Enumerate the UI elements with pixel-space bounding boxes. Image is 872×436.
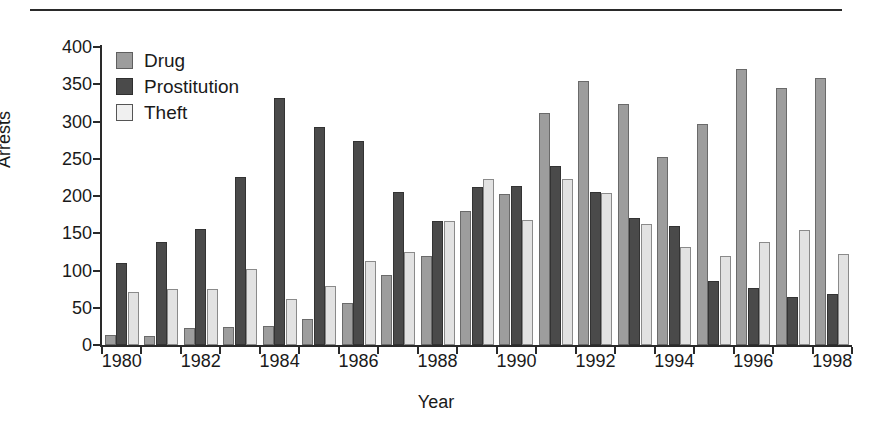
bar-prostitution-1986: [353, 141, 364, 345]
x-tick-label-1986: 1986: [324, 352, 394, 370]
bar-drug-1990: [499, 194, 510, 345]
bar-prostitution-1992: [590, 192, 601, 345]
bar-theft-1984: [286, 299, 297, 345]
bar-prostitution-1987: [393, 192, 404, 345]
bar-theft-1992: [601, 193, 612, 345]
legend-item-drug: Drug: [116, 47, 239, 73]
y-tick-label: 250: [46, 150, 92, 168]
bar-drug-1982: [184, 328, 195, 345]
bar-prostitution-1981: [156, 242, 167, 345]
bar-theft-1993: [641, 224, 652, 345]
bar-theft-1981: [167, 289, 178, 345]
bar-theft-1982: [207, 289, 218, 345]
y-tick-label: 150: [46, 224, 92, 242]
x-tick-label-1980: 1980: [87, 352, 157, 370]
bar-theft-1995: [720, 256, 731, 345]
y-tick: [93, 270, 100, 272]
bar-prostitution-1988: [432, 221, 443, 345]
legend-item-theft: Theft: [116, 99, 239, 125]
bar-prostitution-1998: [827, 294, 838, 345]
y-tick-label: 0: [46, 336, 92, 354]
bar-theft-1990: [522, 220, 533, 345]
bar-prostitution-1996: [748, 288, 759, 345]
x-tick-label-1998: 1998: [797, 352, 867, 370]
bar-drug-1993: [618, 104, 629, 345]
y-tick-label: 50: [46, 299, 92, 317]
bar-theft-1997: [799, 230, 810, 345]
y-tick-label: 200: [46, 187, 92, 205]
bar-theft-1987: [404, 252, 415, 345]
bar-drug-1987: [381, 275, 392, 345]
y-tick: [93, 195, 100, 197]
bar-drug-1997: [776, 88, 787, 345]
x-tick-label-1988: 1988: [403, 352, 473, 370]
bar-theft-1985: [325, 286, 336, 345]
bar-prostitution-1985: [314, 127, 325, 345]
bar-prostitution-1997: [787, 297, 798, 345]
bar-drug-1995: [697, 124, 708, 345]
y-tick: [93, 307, 100, 309]
y-tick: [93, 121, 100, 123]
bar-drug-1992: [578, 81, 589, 345]
bar-prostitution-1989: [472, 187, 483, 345]
bar-drug-1989: [460, 211, 471, 345]
bar-drug-1998: [815, 78, 826, 345]
legend-label-prostitution: Prostitution: [144, 77, 239, 96]
x-tick-label-1982: 1982: [166, 352, 236, 370]
x-tick-label-1990: 1990: [481, 352, 551, 370]
x-tick-label-1984: 1984: [245, 352, 315, 370]
bar-drug-1981: [144, 336, 155, 345]
y-tick: [93, 83, 100, 85]
y-tick: [93, 344, 100, 346]
bar-drug-1988: [421, 256, 432, 345]
x-tick-label-1994: 1994: [639, 352, 709, 370]
chart-legend: Drug Prostitution Theft: [116, 47, 239, 125]
bar-drug-1996: [736, 69, 747, 345]
bar-theft-1989: [483, 179, 494, 345]
bar-drug-1983: [223, 327, 234, 345]
x-tick-label-1996: 1996: [718, 352, 788, 370]
figure-canvas: Arrests Year 050100150200250300350400 19…: [0, 0, 872, 436]
bar-prostitution-1982: [195, 229, 206, 345]
bar-theft-1998: [838, 254, 849, 345]
bar-prostitution-1980: [116, 263, 127, 345]
bar-theft-1983: [246, 269, 257, 345]
bar-prostitution-1994: [669, 226, 680, 345]
bar-drug-1991: [539, 113, 550, 345]
bar-theft-1994: [680, 247, 691, 345]
bar-prostitution-1990: [511, 186, 522, 345]
x-axis-line: [100, 345, 852, 347]
bar-prostitution-1984: [274, 98, 285, 345]
y-tick: [93, 232, 100, 234]
y-axis-title: Arrests: [0, 111, 15, 168]
y-tick-label: 300: [46, 113, 92, 131]
y-tick-label: 400: [46, 38, 92, 56]
legend-swatch-theft-icon: [116, 104, 133, 121]
y-tick: [93, 158, 100, 160]
bar-drug-1986: [342, 303, 353, 345]
y-tick: [93, 46, 100, 48]
bar-theft-1986: [365, 261, 376, 345]
bar-drug-1994: [657, 157, 668, 345]
legend-label-drug: Drug: [144, 51, 185, 70]
y-tick-label: 100: [46, 262, 92, 280]
bar-prostitution-1995: [708, 281, 719, 345]
y-tick-label: 350: [46, 75, 92, 93]
bar-theft-1991: [562, 179, 573, 345]
bar-drug-1980: [105, 335, 116, 345]
x-axis-title: Year: [0, 392, 872, 413]
legend-item-prostitution: Prostitution: [116, 73, 239, 99]
top-divider-rule: [30, 9, 842, 11]
legend-swatch-prostitution-icon: [116, 78, 133, 95]
bar-theft-1980: [128, 292, 139, 345]
bar-prostitution-1991: [550, 166, 561, 345]
bar-theft-1988: [444, 221, 455, 345]
bar-drug-1985: [302, 319, 313, 345]
bar-prostitution-1993: [629, 218, 640, 345]
legend-swatch-drug-icon: [116, 52, 133, 69]
bar-prostitution-1983: [235, 177, 246, 345]
legend-label-theft: Theft: [144, 103, 187, 122]
bar-drug-1984: [263, 326, 274, 345]
x-tick-label-1992: 1992: [560, 352, 630, 370]
bar-theft-1996: [759, 242, 770, 345]
